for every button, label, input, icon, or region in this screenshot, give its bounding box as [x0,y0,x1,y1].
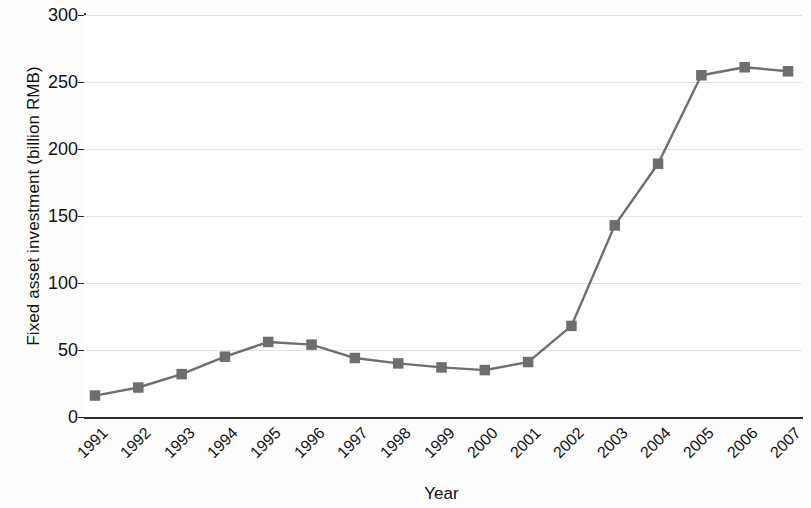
x-axis-tick-label: 1993 [155,424,199,468]
data-series-line [84,15,802,417]
x-axis-tick-label: 1996 [284,424,328,468]
x-axis-tick-label: 1998 [371,424,415,468]
x-axis-tick-label: 2002 [544,424,588,468]
x-axis-tick-label: 1994 [198,424,242,468]
x-axis-tick-label: 1992 [111,424,155,468]
data-point-marker [783,66,794,77]
x-axis-tick-label: 2000 [458,424,502,468]
y-axis-tick-mark [78,417,84,418]
y-axis-tick-label: 50 [26,340,78,361]
y-axis-tick-label: 150 [26,206,78,227]
x-axis-tick-label: 2007 [761,424,805,468]
data-point-marker [350,353,361,364]
x-axis-title-text: Year [424,484,458,503]
data-point-marker [176,369,187,380]
x-axis-tick-label: 2004 [631,424,675,468]
y-axis-tick-label: 0 [26,407,78,428]
y-axis-tick-label: 200 [26,139,78,160]
x-axis-tick-label: 2006 [718,424,762,468]
chart-figure: Fixed asset investment (billion RMB) 050… [0,0,811,508]
y-axis-tick-label: 300 [26,5,78,26]
data-point-marker [393,358,404,369]
y-axis-tick-label: 250 [26,72,78,93]
y-axis-tick-label: 100 [26,273,78,294]
data-point-marker [306,339,317,350]
data-point-marker [696,70,707,81]
series-line [95,67,788,395]
data-point-marker [90,390,101,401]
x-axis-title: Year [0,484,811,504]
x-axis-tick-label: 2005 [674,424,718,468]
data-point-marker [480,365,491,376]
data-point-marker [436,362,447,373]
data-point-marker [566,321,577,332]
plot-area [84,15,802,417]
x-axis-tick-label: 2001 [501,424,545,468]
x-axis-tick-label: 1997 [328,424,372,468]
x-axis-tick-label: 1999 [414,424,458,468]
data-point-marker [653,158,664,169]
data-point-marker [220,351,231,362]
data-point-marker [523,357,534,368]
x-axis-line [84,417,803,419]
x-axis-tick-label: 1995 [241,424,285,468]
data-point-marker [610,220,621,231]
data-point-marker [133,382,144,393]
data-point-marker [263,337,274,348]
x-axis-tick-labels: 1991199219931994199519961997199819992000… [84,424,803,484]
x-axis-tick-label: 2003 [588,424,632,468]
data-point-marker [739,62,750,72]
y-axis-tick-labels: 050100150200250300 [26,0,78,508]
